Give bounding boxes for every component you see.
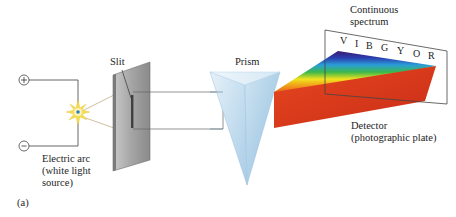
svg-text:I: I	[355, 38, 358, 49]
svg-text:G: G	[381, 42, 388, 53]
slit-opening	[131, 95, 133, 128]
svg-text:Y: Y	[397, 45, 404, 56]
prism-label: Prism	[235, 56, 260, 68]
dispersed-spectrum	[274, 51, 436, 128]
svg-text:B: B	[366, 40, 373, 51]
arc-label-line1: Electric arc	[42, 153, 90, 165]
slit-label: Slit	[110, 56, 125, 68]
svg-text:R: R	[428, 50, 435, 61]
electric-arc-icon	[66, 100, 90, 125]
arc-label-line2: (white light	[42, 165, 91, 177]
arc-label-line3: source)	[42, 177, 73, 189]
detector-label-line2: (photographic plate)	[351, 132, 436, 144]
negative-terminal-icon	[19, 141, 29, 151]
svg-text:O: O	[413, 48, 420, 59]
positive-terminal-icon	[19, 75, 29, 85]
spectrum-label-line2: spectrum	[350, 16, 389, 28]
spectrum-label-line1: Continuous	[350, 4, 398, 16]
spectroscope-diagram: V I B G Y O R Slit Prism Continuous spec…	[0, 0, 456, 217]
detector-label-line1: Detector	[351, 120, 387, 132]
panel-label: (a)	[17, 197, 29, 209]
prism	[210, 72, 280, 185]
slit-plate	[113, 62, 150, 171]
svg-text:V: V	[340, 35, 348, 46]
